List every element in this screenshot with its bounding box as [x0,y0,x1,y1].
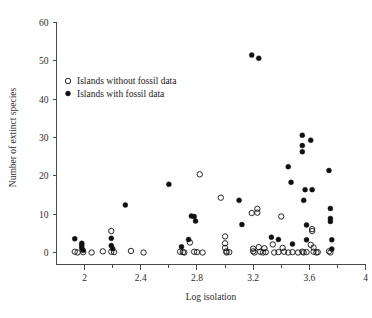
data-point [218,195,223,200]
data-point [249,210,254,215]
data-point [222,234,227,239]
y-tick-label-40: 40 [39,95,49,105]
scatter-plot-figure: 0102030405060 22.42.83.23.64 Islands wit… [0,0,372,318]
data-point [109,236,114,241]
data-point [326,168,331,173]
x-axis-title: Log isolation [186,292,237,302]
data-point [308,138,313,143]
data-point [270,242,275,247]
data-point [239,222,244,227]
x-tick-label-2: 2 [82,273,87,283]
plot-canvas: 0102030405060 22.42.83.23.64 Islands wit… [0,0,372,318]
data-point [81,248,86,253]
x-tick-label-2.4: 2.4 [135,273,147,283]
data-point [110,246,115,251]
y-tick-label-0: 0 [44,248,49,258]
data-point [256,56,261,61]
data-point [100,249,105,254]
data-point [237,198,242,203]
data-point [193,219,198,224]
data-point [310,187,315,192]
data-point [286,164,291,169]
data-point [269,235,274,240]
data-point [128,248,133,253]
x-axis-ticks: 22.42.83.23.64 [82,265,368,284]
data-point [249,53,254,58]
data-point [300,149,305,154]
data-point [329,237,334,242]
data-point [304,237,309,242]
data-point [89,250,94,255]
data-point [301,198,306,203]
x-tick-label-3.2: 3.2 [247,273,259,283]
data-point [186,237,191,242]
data-point [276,237,281,242]
legend-marker-1 [65,78,70,83]
data-point [179,244,184,249]
data-point [109,228,114,233]
x-tick-label-2.8: 2.8 [191,273,203,283]
data-point [304,222,309,227]
data-point [303,187,308,192]
y-axis-title: Number of extinct species [8,87,18,187]
data-point [141,250,146,255]
data-point [328,206,333,211]
x-tick-label-4: 4 [363,273,368,283]
legend-label-1: Islands without fossil data [77,76,177,86]
y-axis-ticks: 0102030405060 [39,18,57,258]
data-point [166,182,171,187]
data-point [255,210,260,215]
data-point [290,242,295,247]
data-point [197,172,202,177]
x-tick-label-3.6: 3.6 [303,273,315,283]
data-point [289,180,294,185]
y-tick-label-50: 50 [39,56,49,66]
data-point [329,247,334,252]
data-point [328,219,333,224]
y-tick-label-20: 20 [39,171,49,181]
data-point [300,133,305,138]
data-point [192,214,197,219]
data-point [200,250,205,255]
legend: Islands without fossil dataIslands with … [65,76,177,99]
data-point [300,143,305,148]
data-point [279,214,284,219]
data-point [123,202,128,207]
legend-label-2: Islands with fossil data [77,89,165,99]
data-point [72,236,77,241]
legend-marker-2 [66,91,71,96]
y-tick-label-60: 60 [39,18,49,28]
y-tick-label-30: 30 [39,133,49,143]
y-tick-label-10: 10 [39,210,49,220]
